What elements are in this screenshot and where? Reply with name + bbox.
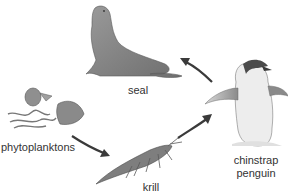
arrow-krill-to-penguin xyxy=(178,114,212,138)
krill-illustration xyxy=(96,138,182,184)
penguin-label-line1: chinstrap xyxy=(228,154,284,167)
arrow-penguin-to-seal xyxy=(180,58,212,82)
seal-illustration xyxy=(86,6,182,78)
penguin-label-line2: penguin xyxy=(228,167,284,180)
phytoplankton-illustration xyxy=(8,88,84,128)
seal-label: seal xyxy=(118,84,158,97)
penguin-illustration xyxy=(205,60,288,146)
krill-label: krill xyxy=(136,181,166,194)
arrow-phytoplankton-to-krill xyxy=(72,136,110,157)
phytoplanktons-label: phytoplanktons xyxy=(0,141,76,154)
